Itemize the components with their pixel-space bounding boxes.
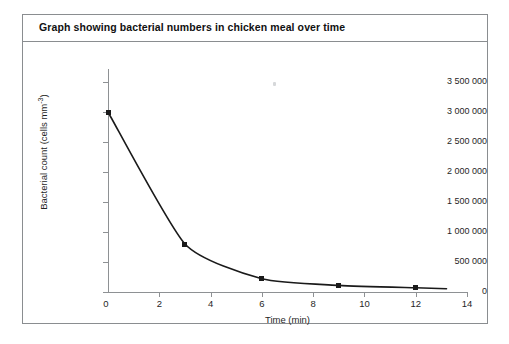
scan-artifact-speck: [273, 82, 276, 86]
plot-area: 0500 0001 000 0001 500 0002 000 0002 500…: [23, 42, 487, 325]
figure-title-bar: Graph showing bacterial numbers in chick…: [23, 15, 487, 42]
data-point-marker: [182, 242, 187, 247]
data-point-marker: [413, 285, 418, 290]
data-point-marker: [259, 276, 264, 281]
data-point-marker: [106, 110, 111, 115]
data-point-marker: [336, 283, 341, 288]
figure-container: Graph showing bacterial numbers in chick…: [22, 14, 488, 324]
page-title: Graph showing bacterial numbers in chick…: [39, 21, 345, 33]
data-curve: [23, 42, 489, 325]
